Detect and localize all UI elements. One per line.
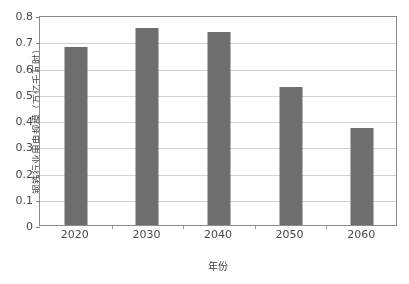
bar [279,87,302,225]
y-axis-tick-label: 0.6 [16,62,34,75]
x-axis-tick-label: 2030 [132,228,160,241]
plot-area [39,16,397,226]
bar [208,32,231,225]
x-axis-title: 年份 [39,258,397,273]
y-axis-tick-label: 0.8 [16,10,34,23]
y-axis-tick-label: 0 [26,220,33,233]
x-axis-tick-label: 2020 [61,228,89,241]
y-axis-tick-label: 0.3 [16,141,34,154]
x-axis-tick-label: 2040 [204,228,232,241]
x-axis-tick-label: 2060 [347,228,375,241]
bar-chart: 钢铁行业用电规模（万亿千瓦时） 00.10.20.30.40.50.60.70.… [0,0,409,284]
bar [136,28,159,225]
x-axis-tick-labels: 20202030204020502060 [39,228,397,246]
y-axis-tick-label: 0.2 [16,167,34,180]
y-axis-tick-label: 0.4 [16,115,34,128]
y-axis-tick-label: 0.5 [16,88,34,101]
bar [64,47,87,226]
y-axis-tick-labels: 00.10.20.30.40.50.60.70.8 [0,0,38,284]
y-axis-tick-label: 0.1 [16,193,34,206]
bar [351,128,374,225]
x-axis-tick-label: 2050 [276,228,304,241]
y-axis-tick-label: 0.7 [16,36,34,49]
bars-group [40,17,396,225]
